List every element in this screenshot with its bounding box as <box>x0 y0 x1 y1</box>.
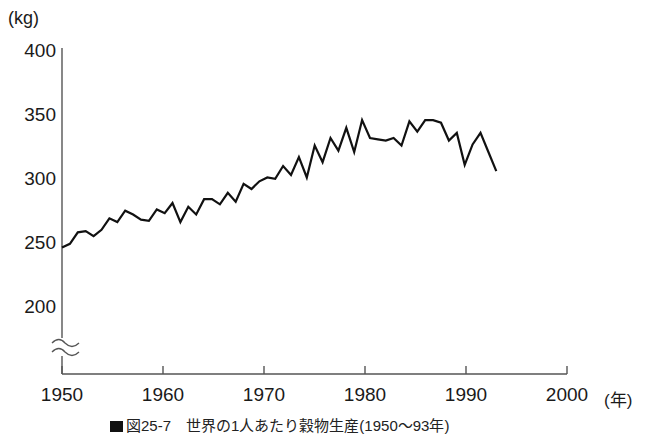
grain-production-line <box>62 120 496 248</box>
caption-marker-icon <box>110 421 123 432</box>
axis-break-icon <box>52 340 79 356</box>
axis-lines <box>62 48 567 374</box>
figure-caption: 図25-7 世界の1人あたり穀物生産(1950〜93年) <box>110 414 449 435</box>
caption-text: 図25-7 世界の1人あたり穀物生産(1950〜93年) <box>126 417 449 434</box>
x-axis-ticks <box>62 366 567 374</box>
